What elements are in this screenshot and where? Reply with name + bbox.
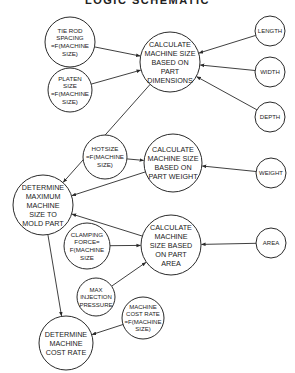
node-calc-part-weight: CALCULATEMACHINE SIZEBASED ONPART WEIGHT	[144, 134, 202, 192]
node-label-line: FORCE=	[74, 238, 100, 245]
node-label-line: CALCULATE	[152, 145, 194, 154]
node-label-line: PART	[161, 67, 180, 76]
node-label-line: WIDTH	[260, 69, 280, 75]
node-label-line: =F(MACHINE	[125, 319, 162, 325]
node-label-line: LENGTH	[258, 28, 282, 34]
node-label-line: =F(MACHINE	[86, 153, 124, 160]
edge-hotsize-to-calc-part-weight	[127, 159, 144, 161]
node-clamping-force: CLAMPINGFORCE=F(MACHINESIZE	[64, 223, 110, 269]
node-label-line: BASED ON	[154, 163, 191, 172]
node-label-line: MACHINE SIZE	[144, 49, 195, 58]
node-label-line: =F(MACHINE	[51, 90, 89, 97]
node-area: AREA	[256, 228, 286, 258]
edge-tie-rod-spacing-to-calc-part-dimensions	[95, 47, 141, 56]
node-label-line: AREA	[161, 259, 181, 268]
node-calc-part-dimensions: CALCULATEMACHINE SIZEBASED ONPARTDIMENSI…	[140, 32, 200, 92]
node-label-line: MACHINE SIZE	[147, 154, 198, 163]
logic-schematic-diagram: TIE RODSPACING=F(MACHINESIZE)PLATENSIZE=…	[0, 0, 295, 373]
node-weight: WEIGHT	[256, 158, 286, 188]
node-calc-part-area: CALCULATEMACHINESIZE BASEDON PARTAREA	[141, 215, 201, 275]
node-max-injection-pressure: MAXINJECTIONPRESSURE	[77, 278, 115, 316]
edge-depth-to-calc-part-dimensions	[197, 77, 257, 110]
node-label-line: DIMENSIONS	[147, 76, 193, 85]
node-label-line: MACHINE	[49, 339, 82, 348]
node-label-line: MAXIMUM	[26, 192, 61, 201]
node-label-line: SIZE)	[135, 326, 150, 332]
node-label-line: CALCULATE	[150, 223, 192, 232]
node-label-line: CALCULATE	[149, 40, 191, 49]
node-label-line: SIZE BASED	[150, 241, 192, 250]
node-length: LENGTH	[255, 16, 285, 46]
node-label-line: BASED ON	[151, 58, 188, 67]
edge-area-to-calc-part-area	[202, 243, 257, 244]
node-platen-size: PLATENSIZE=F(MACHINESIZE)	[48, 68, 92, 112]
node-label-line: ON PART	[155, 250, 187, 259]
node-label-line: =F(MACHINE	[51, 42, 89, 49]
node-label-line: SIZE TO	[29, 210, 57, 219]
node-label-line: SPACING	[56, 34, 84, 41]
node-determine-cost-rate: DETERMINEMACHINECOST RATE	[39, 316, 93, 370]
node-label-line: TIE ROD	[57, 27, 83, 34]
edge-weight-to-calc-part-weight	[202, 166, 256, 172]
node-width: WIDTH	[255, 57, 285, 87]
node-label-line: COST RATE	[126, 311, 160, 317]
node-label-line: PLATEN	[58, 75, 82, 82]
node-label-line: MACHINE	[154, 232, 187, 241]
node-label-line: WEIGHT	[259, 170, 283, 176]
edge-platen-size-to-calc-part-dimensions	[91, 70, 140, 84]
node-machine-cost-rate-fn: MACHINECOST RATE=F(MACHINESIZE)	[122, 297, 164, 339]
node-label-line: MACHINE	[129, 304, 157, 310]
node-determine-max-size: DETERMINEMAXIMUMMACHINESIZE TOMOLD PART	[13, 175, 73, 235]
node-label-line: SIZE)	[97, 161, 113, 168]
node-label-line: SIZE)	[62, 98, 78, 105]
edge-max-injection-pressure-to-calc-part-area	[112, 262, 146, 286]
node-label-line: MACHINE	[26, 201, 59, 210]
edge-length-to-calc-part-dimensions	[199, 35, 256, 53]
node-label-line: DETERMINE	[22, 183, 65, 192]
node-label-line: SIZE)	[62, 50, 78, 57]
node-depth: DEPTH	[255, 102, 285, 132]
node-label-line: SIZE	[80, 254, 94, 261]
node-label-line: F(MACHINE	[70, 246, 104, 253]
node-label-line: AREA	[263, 240, 279, 246]
node-label-line: SIZE	[63, 82, 77, 89]
node-hotsize: HOTSIZE=F(MACHINESIZE)	[83, 135, 127, 179]
node-label-line: PART WEIGHT	[148, 172, 198, 181]
node-tie-rod-spacing: TIE RODSPACING=F(MACHINESIZE)	[45, 17, 95, 67]
node-label-line: DETERMINE	[45, 330, 88, 339]
node-label-line: DEPTH	[260, 114, 280, 120]
node-label-line: PRESSURE	[79, 302, 112, 308]
node-label-line: MAX	[89, 287, 102, 293]
edge-determine-max-size-to-determine-cost-rate	[48, 235, 62, 316]
node-label-line: MOLD PART	[22, 219, 64, 228]
edge-width-to-calc-part-dimensions	[200, 65, 255, 71]
node-label-line: COST RATE	[46, 348, 87, 357]
node-label-line: INJECTION	[80, 294, 112, 300]
edge-machine-cost-rate-fn-to-determine-cost-rate	[92, 325, 123, 335]
node-label-line: HOTSIZE	[92, 145, 119, 152]
node-label-line: CLAMPING	[71, 231, 104, 238]
